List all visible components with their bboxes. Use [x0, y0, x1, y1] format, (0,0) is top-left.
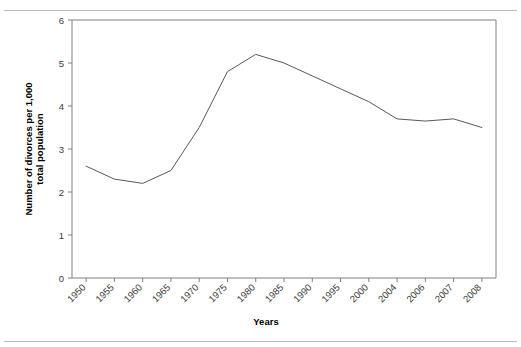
- series-divorce-rate-line: [86, 54, 482, 183]
- y-tick-label: 5: [59, 58, 64, 69]
- x-tick-label: 1960: [121, 282, 144, 305]
- y-tick-label: 1: [59, 230, 64, 241]
- y-tick-label: 6: [59, 15, 64, 26]
- y-axis-title-text: Number of divorces per 1,000total popula…: [23, 82, 45, 215]
- y-tick-label: 2: [59, 187, 64, 198]
- x-tick-label: 1985: [263, 282, 286, 305]
- y-axis-ticks: 0123456: [59, 15, 72, 284]
- x-tick-label: 1965: [150, 282, 173, 305]
- line-chart: 0123456 19501955196019651970197519801985…: [0, 0, 521, 347]
- x-tick-label: 2007: [432, 282, 455, 305]
- x-tick-label: 1955: [93, 282, 116, 305]
- x-tick-label: 1970: [178, 282, 201, 305]
- x-axis-ticks: 1950195519601965197019751980198519901995…: [65, 278, 483, 304]
- x-tick-label: 2004: [376, 282, 399, 305]
- chart-figure: 0123456 19501955196019651970197519801985…: [0, 0, 521, 347]
- data-series-line: [86, 54, 482, 183]
- x-tick-label: 1995: [319, 282, 342, 305]
- x-tick-label: 1990: [291, 282, 314, 305]
- x-tick-label: 2000: [347, 282, 370, 305]
- x-tick-label: 1950: [65, 282, 88, 305]
- x-tick-label: 2006: [404, 282, 427, 305]
- x-axis-title: Years: [253, 316, 278, 327]
- x-tick-label: 1975: [206, 282, 229, 305]
- x-tick-label: 1980: [234, 282, 257, 305]
- x-tick-label: 2008: [461, 282, 484, 305]
- plot-frame: [72, 20, 496, 278]
- y-tick-label: 4: [59, 101, 64, 112]
- y-tick-label: 0: [59, 273, 64, 284]
- y-axis-title: Number of divorces per 1,000total popula…: [23, 82, 45, 215]
- y-tick-label: 3: [59, 144, 64, 155]
- x-axis-title-text: Years: [253, 316, 278, 327]
